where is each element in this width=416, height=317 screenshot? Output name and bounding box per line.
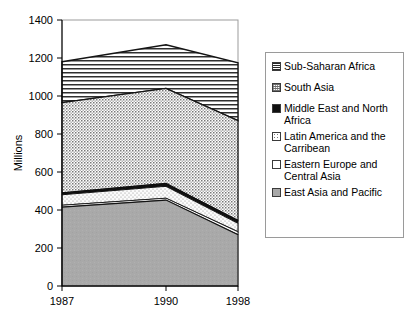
y-tick-label-400: 400: [35, 204, 53, 216]
legend-label-eastern-europe-central-asia: Eastern Europe and Central Asia: [284, 158, 377, 182]
legend-item-south-asia[interactable]: South Asia: [272, 81, 399, 93]
x-tick-label-1998: 1998: [226, 295, 250, 307]
legend-label-sub-saharan-africa: Sub-Saharan Africa: [284, 60, 375, 72]
chart-legend: Sub-Saharan Africa South Asia Middle Eas…: [265, 52, 404, 238]
legend-label-latin-america-carribean: Latin America and the Carribean: [284, 130, 386, 154]
y-tick-label-800: 800: [35, 128, 53, 140]
y-tick-label-0: 0: [47, 280, 53, 292]
y-axis-title: Millions: [12, 134, 24, 171]
legend-swatch-solid-white-icon: [272, 160, 281, 169]
x-tick-label-1987: 1987: [50, 295, 74, 307]
x-axis-ticks: [62, 286, 238, 291]
y-tick-label-600: 600: [35, 166, 53, 178]
y-tick-label-1200: 1200: [29, 52, 53, 64]
legend-swatch-sparse-dots-icon: [272, 132, 281, 141]
legend-swatch-solid-gray-icon: [272, 188, 281, 197]
legend-label-east-asia-pacific: East Asia and Pacific: [284, 186, 382, 198]
y-tick-label-1000: 1000: [29, 90, 53, 102]
legend-swatch-fine-checker-icon: [272, 83, 281, 92]
legend-label-middle-east-north-africa: Middle East and North Africa: [284, 102, 388, 126]
chart-plot-container: 1400 1200 1000 800 600 400 200 0 Million…: [0, 0, 258, 317]
legend-item-eastern-europe-central-asia[interactable]: Eastern Europe and Central Asia: [272, 158, 399, 182]
x-tick-label-1990: 1990: [154, 295, 178, 307]
chart-figure: 1400 1200 1000 800 600 400 200 0 Million…: [0, 0, 416, 317]
legend-swatch-solid-black-icon: [272, 104, 281, 113]
y-axis-ticks: [57, 20, 62, 286]
y-tick-label-200: 200: [35, 242, 53, 254]
legend-item-latin-america-carribean[interactable]: Latin America and the Carribean: [272, 130, 399, 154]
legend-label-south-asia: South Asia: [284, 81, 334, 93]
legend-item-east-asia-pacific[interactable]: East Asia and Pacific: [272, 186, 399, 198]
legend-item-sub-saharan-africa[interactable]: Sub-Saharan Africa: [272, 60, 399, 72]
legend-item-middle-east-north-africa[interactable]: Middle East and North Africa: [272, 102, 399, 126]
legend-swatch-horizontal-lines-icon: [272, 62, 281, 71]
y-tick-label-1400: 1400: [29, 14, 53, 26]
stacked-area-chart: 1400 1200 1000 800 600 400 200 0 Million…: [0, 0, 258, 317]
